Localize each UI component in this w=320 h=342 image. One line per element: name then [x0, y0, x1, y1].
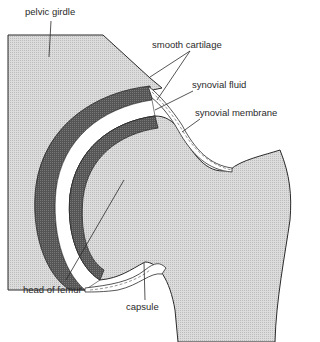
label-head-of-femur: head of femur	[23, 285, 82, 295]
label-capsule: capsule	[126, 302, 159, 312]
label-pelvic-girdle: pelvic girdle	[25, 7, 75, 17]
label-smooth-cartilage: smooth cartilage	[152, 40, 222, 50]
label-synovial-fluid: synovial fluid	[192, 80, 246, 90]
label-synovial-membrane: synovial membrane	[195, 108, 277, 118]
